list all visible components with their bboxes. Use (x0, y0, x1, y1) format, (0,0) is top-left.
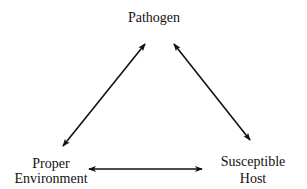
node-susceptible-host: Susceptible Host (203, 154, 303, 186)
node-label-line2: Environment (1, 171, 101, 186)
node-label-line1: Susceptible (203, 154, 303, 169)
arrow-pathogen-environment (63, 44, 145, 146)
node-pathogen: Pathogen (104, 10, 204, 25)
arrow-pathogen-host (174, 44, 250, 140)
node-proper-environment: Proper Environment (1, 156, 101, 186)
node-label-line1: Proper (1, 156, 101, 171)
node-label-line2: Host (203, 171, 303, 186)
